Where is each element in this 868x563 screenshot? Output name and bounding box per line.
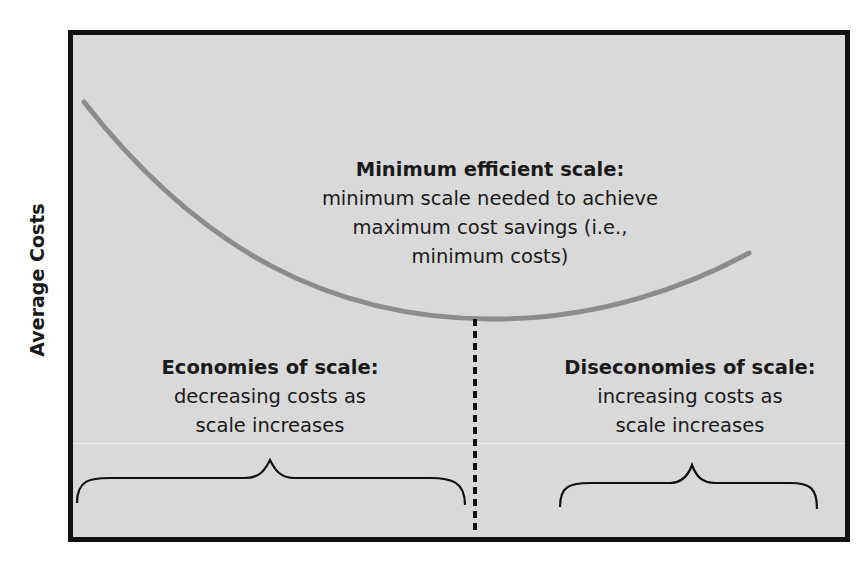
mes-line-1: minimum scale needed to achieve xyxy=(270,184,710,213)
mes-title: Minimum efficient scale: xyxy=(270,155,710,184)
diseconomies-brace xyxy=(560,465,817,509)
economies-brace xyxy=(77,460,465,505)
eos-title: Economies of scale: xyxy=(115,353,425,382)
minimum-efficient-scale-annotation: Minimum efficient scale: minimum scale n… xyxy=(270,155,710,271)
mes-line-2: maximum cost savings (i.e., xyxy=(270,213,710,242)
mes-line-3: minimum costs) xyxy=(270,242,710,271)
dis-line-1: increasing costs as xyxy=(540,382,840,411)
eos-line-1: decreasing costs as xyxy=(115,382,425,411)
eos-line-2: scale increases xyxy=(115,411,425,440)
cost-curve-plot xyxy=(0,0,868,563)
economies-of-scale-annotation: Economies of scale: decreasing costs as … xyxy=(115,353,425,440)
dis-title: Diseconomies of scale: xyxy=(540,353,840,382)
dis-line-2: scale increases xyxy=(540,411,840,440)
diseconomies-of-scale-annotation: Diseconomies of scale: increasing costs … xyxy=(540,353,840,440)
